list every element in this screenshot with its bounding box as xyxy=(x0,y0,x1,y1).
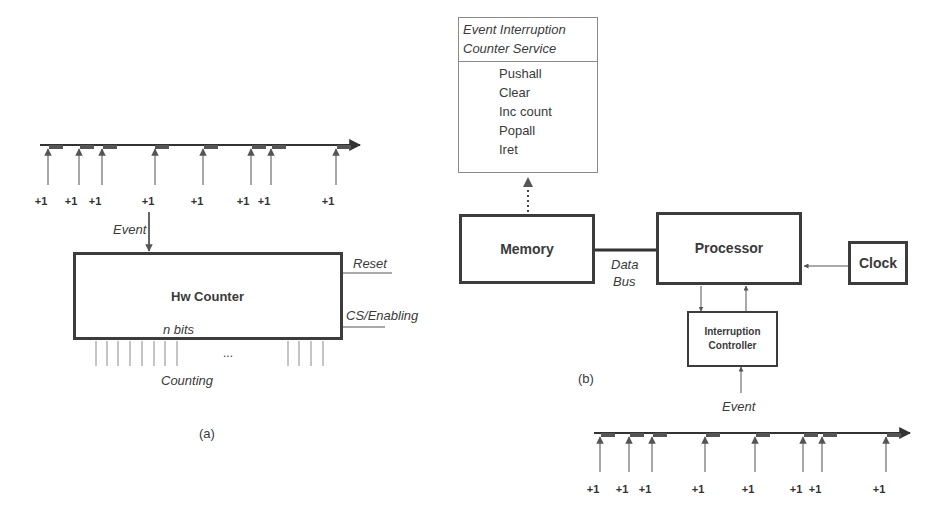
hw-counter-box: Hw Counter n bits xyxy=(73,252,343,340)
memory-box: Memory xyxy=(459,214,595,284)
clock-label: Clock xyxy=(859,255,897,271)
service-title-line1: Event Interruption xyxy=(463,20,593,39)
memory-label: Memory xyxy=(500,241,554,257)
pulse-label: +1 xyxy=(587,483,600,495)
timeline-a xyxy=(40,145,360,185)
service-step: Clear xyxy=(499,83,597,102)
controller-label-2: Controller xyxy=(709,339,757,353)
timeline-b xyxy=(594,433,910,472)
pulse-label: +1 xyxy=(142,195,155,207)
pulse-label: +1 xyxy=(873,483,886,495)
service-step: Pushall xyxy=(499,64,597,83)
pulse-label: +1 xyxy=(742,483,755,495)
pulse-label: +1 xyxy=(790,483,803,495)
data-bus-label-1: Data xyxy=(611,257,638,272)
bit-width-label: n bits xyxy=(163,322,194,337)
reset-label: Reset xyxy=(353,256,387,271)
processor-label: Processor xyxy=(695,240,763,256)
pulse-label: +1 xyxy=(191,195,204,207)
event-label-a: Event xyxy=(113,222,146,237)
pulse-label: +1 xyxy=(322,195,335,207)
service-step: Popall xyxy=(499,121,597,140)
interruption-controller-box: Interruption Controller xyxy=(687,311,778,367)
counting-label: Counting xyxy=(161,373,213,388)
pulse-label: +1 xyxy=(616,483,629,495)
caption-b: (b) xyxy=(578,371,594,386)
pulse-label: +1 xyxy=(809,483,822,495)
pulse-label: +1 xyxy=(692,483,705,495)
pulse-label: +1 xyxy=(639,483,652,495)
counting-lines xyxy=(96,341,323,366)
service-steps: Pushall Clear Inc count Popall Iret xyxy=(459,62,597,159)
service-header: Event Interruption Counter Service xyxy=(459,18,597,62)
pulse-label: +1 xyxy=(35,195,48,207)
data-bus-label-2: Bus xyxy=(613,274,635,289)
caption-a: (a) xyxy=(199,426,215,441)
pulse-label: +1 xyxy=(258,195,271,207)
service-title-line2: Counter Service xyxy=(463,39,593,58)
pulse-label: +1 xyxy=(65,195,78,207)
processor-box: Processor xyxy=(656,212,802,285)
service-step: Inc count xyxy=(499,102,597,121)
service-routine-box: Event Interruption Counter Service Pusha… xyxy=(458,17,598,173)
event-label-b: Event xyxy=(722,399,755,414)
service-step: Iret xyxy=(499,140,597,159)
enable-label: CS/Enabling xyxy=(346,308,418,323)
controller-label-1: Interruption xyxy=(704,325,760,339)
pulse-label: +1 xyxy=(89,195,102,207)
pulse-label: +1 xyxy=(237,195,250,207)
hw-counter-title: Hw Counter xyxy=(171,289,244,304)
clock-box: Clock xyxy=(848,241,908,285)
ellipsis: ... xyxy=(223,346,233,360)
